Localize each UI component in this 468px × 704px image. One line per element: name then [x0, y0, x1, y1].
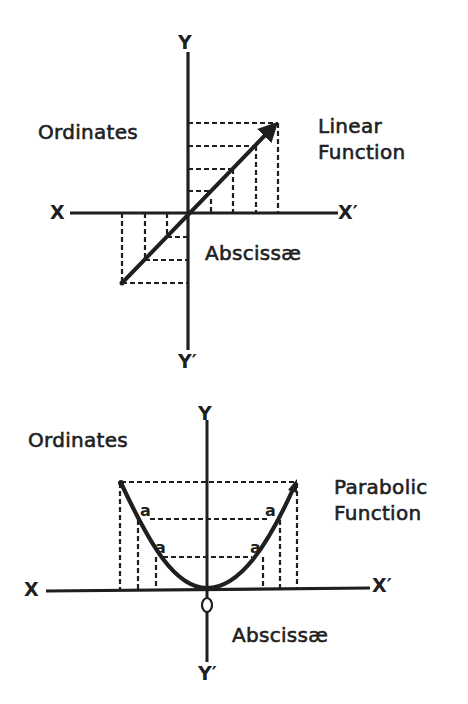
parabolic-x-prime-label: X′ [372, 576, 392, 595]
parabolic-x-label: X [24, 580, 39, 599]
parabolic-abscissae-label: Abscissæ [232, 625, 328, 645]
parabolic-ordinates-label: Ordinates [28, 430, 128, 450]
parabola-point-marker: a [250, 540, 261, 556]
linear-y-prime-label: Y′ [178, 352, 197, 371]
parabolic-y-prime-label: Y′ [198, 664, 217, 683]
linear-y-label: Y [178, 33, 192, 52]
linear-function-title-line1: Linear [318, 116, 382, 136]
linear-x-label: X [50, 203, 65, 222]
parabolic-function-title-line1: Parabolic [334, 477, 428, 497]
linear-function-title-line2: Function [318, 142, 405, 162]
parabola-point-marker: a [140, 503, 151, 519]
origin-marker [202, 598, 212, 612]
parabola-point-marker: a [155, 540, 166, 556]
linear-x-prime-label: X′ [338, 203, 358, 222]
parabola-point-marker: a [265, 503, 276, 519]
linear-diagram [70, 52, 338, 350]
linear-abscissae-label: Abscissæ [205, 243, 301, 263]
linear-ordinates-label: Ordinates [38, 122, 138, 142]
parabolic-y-label: Y [198, 404, 212, 423]
diagram-canvas [0, 0, 468, 704]
parabolic-function-title-line2: Function [334, 503, 421, 523]
